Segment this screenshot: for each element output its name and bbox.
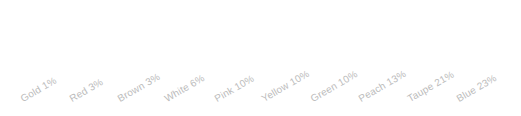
plot-area — [0, 0, 521, 58]
x-axis-tick-label: Pink 10% — [213, 73, 256, 104]
x-axis-tick-label: Taupe 21% — [406, 69, 456, 104]
x-axis-tick-label: Gold 1% — [19, 75, 58, 104]
x-axis-tick-label: Red 3% — [68, 77, 105, 104]
x-axis-tick-label: Yellow 10% — [260, 69, 311, 104]
x-axis-labels: Gold 1% Red 3% Brown 3% White 6% Pink 10… — [0, 58, 521, 116]
x-axis-tick-label: Blue 23% — [455, 73, 498, 104]
x-axis-tick-label: Brown 3% — [116, 72, 162, 104]
x-axis-tick-label: White 6% — [163, 73, 206, 104]
x-axis-tick-label: Peach 13% — [357, 69, 408, 104]
chart-container: Gold 1% Red 3% Brown 3% White 6% Pink 10… — [0, 0, 521, 116]
x-axis-tick-label: Green 10% — [309, 69, 359, 104]
